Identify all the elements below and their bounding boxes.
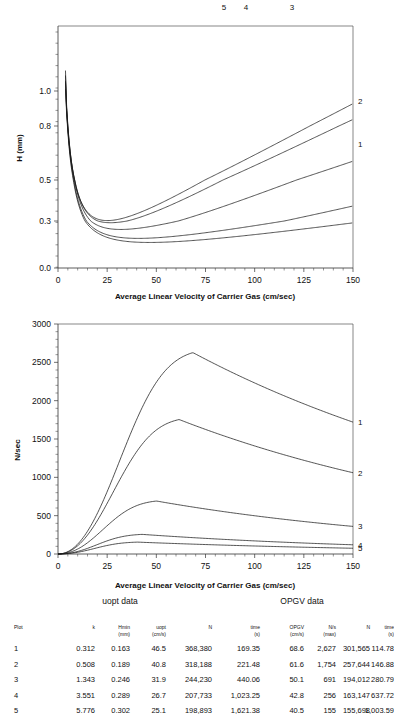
table-cell: 31.9 bbox=[151, 675, 166, 684]
chart1-x-tick-label: 150 bbox=[346, 275, 360, 285]
table-cell: 68.6 bbox=[289, 644, 304, 653]
chart1-y-tick-label: 1.0 bbox=[39, 86, 51, 96]
chart1-y-tick-label: 0.5 bbox=[39, 175, 51, 185]
chart2-curve-5 bbox=[58, 542, 353, 554]
summary-data-table: uopt dataOPGV data PlotkHmin(mm)uopt(cm/… bbox=[0, 594, 394, 727]
chart1-y-axis-title: H (mm) bbox=[15, 134, 24, 162]
table-col-header: uopt bbox=[156, 624, 166, 630]
table-cell: 257,644 bbox=[343, 660, 370, 669]
chart1-x-tick-label: 50 bbox=[152, 275, 162, 285]
chart2-curve-1 bbox=[58, 353, 353, 554]
chart1-curves bbox=[65, 71, 352, 243]
table-col-header: Plot bbox=[14, 624, 23, 630]
chart1-curve-label-5: 5 bbox=[222, 3, 227, 12]
chart2-axis-lines bbox=[58, 324, 353, 554]
chart1-curve-5 bbox=[65, 82, 352, 220]
chart1-axis-lines bbox=[58, 26, 353, 268]
table-cell: 0.508 bbox=[76, 660, 95, 669]
table-cell: 146.88 bbox=[371, 660, 394, 669]
table-cell: 691 bbox=[323, 675, 336, 684]
chart2-curve-label-1: 1 bbox=[358, 418, 363, 427]
plates-per-second-chart: 0500100015002000250030000255075100125150… bbox=[0, 310, 394, 595]
table-col-header-unit: (s) bbox=[254, 631, 260, 637]
chart1-y-tick-label: 0.8 bbox=[39, 121, 51, 131]
chart2-x-axis-title: Average Linear Velocity of Carrier Gas (… bbox=[115, 581, 296, 590]
table-cell: 318,188 bbox=[185, 660, 212, 669]
chart2-y-tick-label: 2500 bbox=[32, 357, 51, 367]
table-cell: 40.5 bbox=[289, 706, 304, 715]
table-col-header-unit: (cm/s) bbox=[152, 631, 166, 637]
table-col-header: Hmin bbox=[118, 624, 130, 630]
chart1-curve-2 bbox=[65, 81, 352, 239]
table-cell: 1,754 bbox=[317, 660, 336, 669]
table-cell: 42.8 bbox=[289, 691, 304, 700]
table-col-header-unit: (s) bbox=[388, 631, 394, 637]
table-cell: 0.312 bbox=[76, 644, 95, 653]
figure-container: 0.00.30.50.81.0025507510012515054321 H (… bbox=[0, 0, 394, 727]
table-cell: 2,627 bbox=[317, 644, 336, 653]
table-col-header: k bbox=[93, 624, 96, 630]
table-col-header: N bbox=[366, 624, 370, 630]
chart1-curve-label-1: 1 bbox=[358, 140, 363, 149]
chart1-x-axis-title: Average Linear Velocity of Carrier Gas (… bbox=[115, 292, 296, 301]
chart1-curve-label-2: 2 bbox=[358, 97, 363, 106]
table-group-header-uopt: uopt data bbox=[102, 596, 138, 606]
chart2-curve-label-3: 3 bbox=[358, 522, 363, 531]
table-col-header-unit: (mm) bbox=[118, 631, 130, 637]
table-cell: 368,380 bbox=[185, 644, 212, 653]
table-cell: 221.48 bbox=[237, 660, 260, 669]
chart2-curve-label-5: 5 bbox=[358, 544, 363, 553]
table-cell: 5.776 bbox=[76, 706, 95, 715]
table-cell: 440.06 bbox=[237, 675, 260, 684]
chart2-x-tick-label: 0 bbox=[56, 561, 61, 571]
chart2-y-axis-title: N/sec bbox=[13, 439, 22, 461]
table-group-header-opgv: OPGV data bbox=[280, 596, 324, 606]
chart1-curve-3 bbox=[65, 71, 352, 230]
table-cell: 155 bbox=[323, 706, 336, 715]
chart2-y-tick-label: 1000 bbox=[32, 472, 51, 482]
table-column-headers: PlotkHmin(mm)uopt(cm/s)Ntime(s)OPGV(cm/s… bbox=[14, 624, 394, 637]
chart2-x-tick-label: 100 bbox=[248, 561, 262, 571]
table-cell: 194,012 bbox=[343, 675, 370, 684]
chart2-curves bbox=[58, 353, 353, 554]
chart2-y-tick-label: 3000 bbox=[32, 319, 51, 329]
table-cell: 1,023.25 bbox=[231, 691, 260, 700]
table-cell: 61.6 bbox=[289, 660, 304, 669]
table-cell: 114.78 bbox=[372, 644, 394, 653]
table-group-headers: uopt dataOPGV data bbox=[102, 596, 324, 606]
chart2-curve-2 bbox=[58, 420, 353, 554]
chart2-x-tick-label: 50 bbox=[152, 561, 162, 571]
table-cell: 25.1 bbox=[151, 706, 166, 715]
table-cell: 0.246 bbox=[111, 675, 130, 684]
table-cell: 3.551 bbox=[76, 691, 95, 700]
table-cell: 1,621.38 bbox=[231, 706, 260, 715]
table-cell: 0.163 bbox=[111, 644, 130, 653]
table-cell: 1 bbox=[14, 644, 18, 653]
table-cell: 169.35 bbox=[237, 644, 260, 653]
chart2-curve-label-2: 2 bbox=[358, 469, 363, 478]
table-cell: 46.5 bbox=[151, 644, 166, 653]
table-cell: 244,230 bbox=[185, 675, 212, 684]
table-col-header: N/s bbox=[329, 624, 337, 630]
table-cell: 50.1 bbox=[289, 675, 304, 684]
table-cell: 207,733 bbox=[185, 691, 212, 700]
chart1-curve-label-4: 4 bbox=[244, 3, 249, 12]
chart2-x-tick-label: 75 bbox=[201, 561, 211, 571]
table-cell: 2 bbox=[14, 660, 18, 669]
table-cell: 1.343 bbox=[76, 675, 95, 684]
chart1-curve-label-3: 3 bbox=[290, 3, 295, 12]
table-cell: 3 bbox=[14, 675, 18, 684]
table-cell: 163,147 bbox=[343, 691, 370, 700]
table-cell: 301,565 bbox=[343, 644, 370, 653]
table-cell: 4 bbox=[14, 691, 18, 700]
chart2-y-tick-label: 500 bbox=[37, 511, 51, 521]
table-cell: 26.7 bbox=[151, 691, 166, 700]
chart2-axes bbox=[54, 324, 353, 558]
chart1-x-tick-label: 25 bbox=[102, 275, 112, 285]
chart2-y-tick-label: 0 bbox=[46, 549, 51, 559]
table-cell: 0.302 bbox=[111, 706, 130, 715]
chart1-y-tick-label: 0.3 bbox=[39, 216, 51, 226]
chart1-x-tick-label: 100 bbox=[248, 275, 262, 285]
chart2-x-tick-label: 25 bbox=[102, 561, 112, 571]
table-cell: 1,003.59 bbox=[365, 706, 394, 715]
